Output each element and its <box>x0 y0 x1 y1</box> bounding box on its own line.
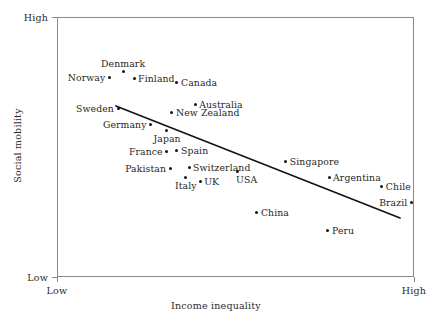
scatter-plot-figure: High Low Low High Income inequality Soci… <box>0 0 432 329</box>
trend-line <box>0 0 432 329</box>
